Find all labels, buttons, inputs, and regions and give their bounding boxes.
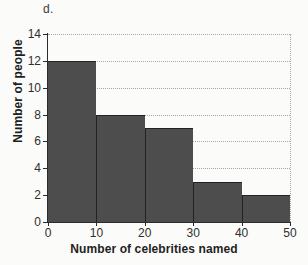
- x-axis-title: Number of celebrities named: [0, 242, 308, 256]
- y-tick-label: 2: [19, 189, 41, 201]
- histogram-bar: [145, 128, 193, 222]
- y-tick-mark: [43, 141, 47, 142]
- panel-letter-label: d.: [43, 2, 54, 16]
- plot-right-border: [290, 34, 291, 222]
- histogram-bar: [242, 195, 290, 222]
- figure-panel: d. 02468101214 01020304050 Number of cel…: [0, 0, 308, 265]
- y-tick-label: 4: [19, 162, 41, 174]
- y-tick-mark: [43, 195, 47, 196]
- y-tick-mark: [43, 168, 47, 169]
- x-tick-label: 40: [227, 227, 257, 239]
- histogram-bar: [193, 182, 241, 222]
- y-tick-mark: [43, 115, 47, 116]
- y-axis-title: Number of people: [11, 21, 25, 161]
- y-tick-mark: [43, 61, 47, 62]
- plot-area: [48, 34, 290, 222]
- histogram-bar: [48, 61, 96, 222]
- x-tick-label: 30: [178, 227, 208, 239]
- x-tick-label: 20: [130, 227, 160, 239]
- gridline: [48, 34, 290, 35]
- y-tick-mark: [43, 88, 47, 89]
- y-tick-mark: [43, 34, 47, 35]
- x-tick-label: 0: [33, 227, 63, 239]
- x-tick-label: 50: [275, 227, 305, 239]
- y-tick-mark: [43, 222, 47, 223]
- histogram-bar: [96, 115, 144, 222]
- x-tick-label: 10: [81, 227, 111, 239]
- x-axis-line: [47, 222, 291, 223]
